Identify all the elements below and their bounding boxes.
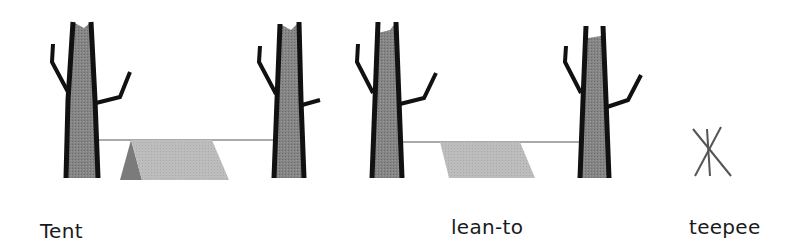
- tree-2: [259, 22, 320, 178]
- label-tent: Tent: [40, 219, 83, 243]
- tent-scene: [52, 22, 320, 180]
- tree-1: [52, 22, 130, 178]
- tent-body: [131, 140, 229, 180]
- lean-to-tarp: [440, 142, 535, 178]
- tree-4: [565, 26, 641, 178]
- lean-to-scene: [357, 22, 641, 178]
- label-teepee: teepee: [689, 215, 761, 239]
- teepee-icon: [693, 127, 731, 176]
- label-lean-to: lean-to: [451, 215, 523, 239]
- tree-3: [357, 22, 436, 178]
- shelter-diagram: [0, 0, 811, 249]
